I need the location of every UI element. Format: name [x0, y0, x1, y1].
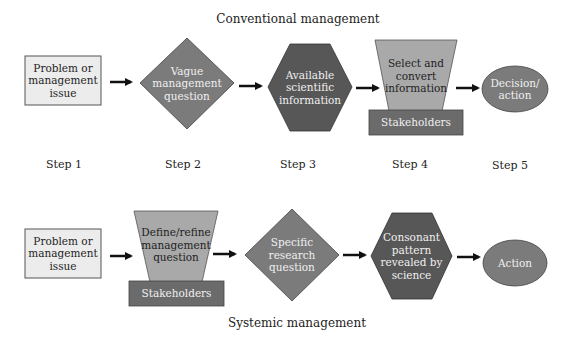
systemic-consonant-pattern-label: Consonant pattern revealed by science: [371, 213, 452, 299]
conventional-decision-label: Decision/ action: [482, 66, 548, 112]
systemic-action-label: Action: [483, 240, 547, 286]
conventional-stakeholders-label: Stakeholders: [369, 110, 463, 135]
systemic-define-question-label: Define/refine management question: [136, 215, 216, 275]
step-4-label: Step 4: [380, 158, 440, 171]
step-3-label: Step 3: [268, 158, 328, 171]
systemic-problem-label: Problem or management issue: [25, 229, 101, 278]
step-5-label: Step 5: [480, 159, 540, 172]
conventional-scientific-info-label: Available scientific information: [268, 44, 352, 131]
conventional-title: Conventional management: [198, 12, 398, 26]
conventional-vague-question-label: Vague management question: [140, 38, 234, 129]
step-2-label: Step 2: [153, 158, 213, 171]
conventional-select-convert-label: Select and convert information: [380, 46, 452, 106]
step-1-label: Step 1: [34, 158, 94, 171]
systemic-stakeholders-label: Stakeholders: [129, 281, 224, 306]
conventional-problem-label: Problem or management issue: [25, 56, 101, 105]
systemic-title: Systemic management: [197, 316, 397, 330]
systemic-research-question-label: Specific research question: [245, 209, 339, 301]
